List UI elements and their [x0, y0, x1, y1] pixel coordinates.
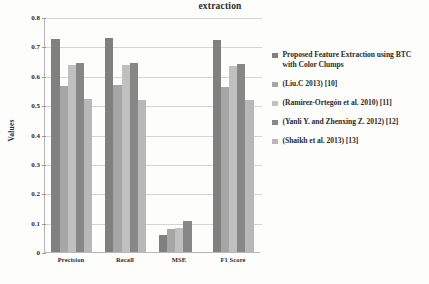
bar-2-0	[68, 65, 76, 252]
x-tick-0: Precision	[44, 256, 98, 263]
y-axis-label: Values	[7, 106, 16, 156]
plot-area: Values 00.10.20.30.40.50.60.70.8 Precisi…	[0, 18, 268, 268]
bar-1-0	[60, 86, 68, 252]
bar-0-1	[105, 38, 113, 252]
y-tick-6: 0.6	[16, 73, 40, 81]
bar-3-1	[130, 63, 138, 252]
y-tickmark-0	[42, 253, 46, 254]
y-axis-tick-labels: 00.10.20.30.40.50.60.70.8	[18, 18, 42, 253]
x-tick-2: MSE	[152, 256, 206, 263]
y-tick-1: 0.1	[16, 220, 40, 228]
legend-label-2: (Ramirez-Ortegón et al. 2010) [11]	[283, 98, 392, 108]
bar-0-2	[159, 235, 167, 252]
y-tick-7: 0.7	[16, 43, 40, 51]
legend-label-1: (Liu.C 2013) [10]	[283, 79, 338, 89]
x-axis-tick-labels: PrecisionRecallMSEF1 Score	[44, 256, 260, 263]
bar-3-3	[237, 64, 245, 252]
axes	[44, 18, 260, 253]
bar-1-1	[113, 85, 121, 252]
y-tick-8: 0.8	[16, 14, 40, 22]
legend-entry-2[interactable]: (Ramirez-Ortegón et al. 2010) [11]	[272, 98, 427, 108]
bar-4-3	[245, 100, 253, 252]
bar-1-3	[221, 87, 229, 252]
legend-label-3: (Yanli Y. and Zhenxing Z. 2012) [12]	[283, 117, 399, 127]
legend-label-4: (Shaikh et al. 2013) [13]	[283, 136, 359, 146]
bar-3-0	[76, 63, 84, 252]
x-tick-1: Recall	[98, 256, 152, 263]
legend: Proposed Feature Extraction using BTC wi…	[272, 50, 427, 155]
bar-2-3	[229, 66, 237, 252]
chart-title: extraction	[120, 1, 320, 11]
y-tick-3: 0.3	[16, 161, 40, 169]
legend-swatch-icon-1	[272, 82, 278, 88]
x-tick-3: F1 Score	[206, 256, 260, 263]
y-tick-0: 0	[16, 249, 40, 257]
legend-entry-1[interactable]: (Liu.C 2013) [10]	[272, 79, 427, 89]
legend-entry-3[interactable]: (Yanli Y. and Zhenxing Z. 2012) [12]	[272, 117, 427, 127]
legend-swatch-icon-0	[272, 53, 278, 59]
legend-swatch-icon-4	[272, 139, 278, 145]
legend-swatch-icon-3	[272, 120, 278, 126]
bar-group-mse	[153, 18, 207, 252]
bar-3-2	[183, 221, 191, 252]
legend-label-0: Proposed Feature Extraction using BTC wi…	[283, 50, 428, 70]
legend-entry-4[interactable]: (Shaikh et al. 2013) [13]	[272, 136, 427, 146]
bar-groups	[45, 18, 260, 252]
bar-2-1	[122, 65, 130, 252]
bar-4-1	[138, 100, 146, 252]
y-tick-5: 0.5	[16, 102, 40, 110]
bar-0-3	[213, 40, 221, 252]
y-tick-2: 0.2	[16, 190, 40, 198]
y-tick-4: 0.4	[16, 132, 40, 140]
legend-entry-0[interactable]: Proposed Feature Extraction using BTC wi…	[272, 50, 427, 70]
bar-group-f1-score	[206, 18, 260, 252]
bar-1-2	[167, 229, 175, 252]
bar-4-0	[84, 99, 92, 252]
bar-group-precision	[45, 18, 99, 252]
bar-group-recall	[99, 18, 153, 252]
bar-2-2	[175, 228, 183, 252]
legend-swatch-icon-2	[272, 101, 278, 107]
bar-0-0	[51, 39, 59, 252]
chart-figure: extraction Values 00.10.20.30.40.50.60.7…	[0, 0, 429, 284]
